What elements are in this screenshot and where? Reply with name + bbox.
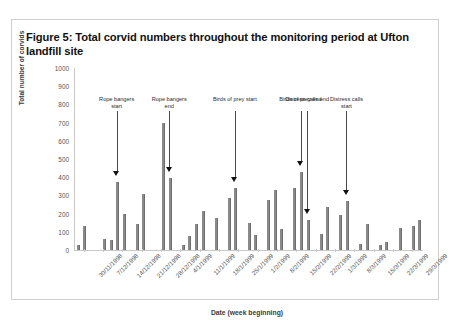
chart-bar: [300, 172, 303, 250]
chart-bar: [254, 235, 257, 250]
y-axis-tick: 800: [58, 101, 69, 108]
chart-bar: [77, 245, 80, 250]
x-axis-title: Date (week beginning): [152, 309, 342, 316]
chart-annotation-label: Distress calls end: [285, 96, 329, 103]
y-axis-tick: 900: [58, 83, 69, 90]
chart-annotation-arrow-icon: [166, 167, 172, 172]
chart-annotation-arrow-icon: [113, 171, 119, 176]
chart-bar: [228, 198, 231, 250]
chart-bar: [215, 218, 218, 250]
y-axis-tick: 400: [58, 174, 69, 181]
chart-annotation-label: Rope bangers start: [95, 96, 139, 109]
chart-bar: [248, 223, 251, 250]
chart-bar: [234, 188, 237, 250]
y-axis-tick: 0: [65, 247, 69, 254]
chart-bar: [326, 207, 329, 250]
y-axis-tick: 1000: [55, 65, 69, 72]
chart-bar: [110, 240, 113, 250]
y-axis-title: Total number of corvids: [18, 8, 25, 128]
x-axis-tick-mark: [277, 249, 278, 252]
y-axis-tick: 200: [58, 210, 69, 217]
x-axis-tick-mark: [103, 249, 104, 252]
chart-annotation-arrow-icon: [304, 209, 310, 214]
chart-annotation-arrow-icon: [297, 161, 303, 166]
chart-bar: [142, 194, 145, 250]
x-axis-tick-mark: [354, 249, 355, 252]
x-axis-tick-labels: 30/11/19987/12/199814/12/199821/12/19982…: [74, 252, 422, 304]
x-axis-tick-mark: [161, 249, 162, 252]
chart-annotation-label: Birds of prey start: [213, 96, 257, 103]
x-axis-tick-mark: [122, 249, 123, 252]
chart-annotation-leader-line: [169, 111, 170, 167]
x-axis-tick-mark: [412, 249, 413, 252]
chart-bar: [280, 229, 283, 250]
x-axis-tick: 8/2/1999: [288, 252, 310, 274]
chart-bar: [339, 215, 342, 250]
x-axis-tick-mark: [258, 249, 259, 252]
chart-bar: [83, 226, 86, 250]
chart-bar: [359, 244, 362, 250]
chart-bar: [182, 245, 185, 250]
chart-bar: [399, 228, 402, 250]
chart-annotation-arrow-icon: [343, 190, 349, 195]
chart-plot-panel: Total number of corvids 0100200300400500…: [22, 68, 430, 292]
chart-annotation-leader-line: [235, 111, 236, 177]
x-axis-tick-mark: [238, 249, 239, 252]
chart-bar: [385, 242, 388, 250]
y-axis-tick: 100: [58, 228, 69, 235]
chart-annotation-label: Distress calls start: [324, 96, 368, 109]
chart-bar: [320, 234, 323, 250]
chart-annotation-leader-line: [117, 111, 118, 171]
x-axis-tick: 8/3/1999: [365, 252, 387, 274]
x-axis-tick-mark: [142, 249, 143, 252]
chart-bar: [162, 123, 165, 250]
x-axis-tick-mark: [335, 249, 336, 252]
chart-bar: [307, 220, 310, 250]
x-axis-tick-mark: [316, 249, 317, 252]
chart-annotation-label: Rope bangers end: [147, 96, 191, 109]
chart-bar: [267, 200, 270, 250]
x-axis-tick-mark: [180, 249, 181, 252]
chart-annotation-leader-line: [301, 111, 302, 161]
chart-bar: [188, 236, 191, 250]
chart-annotation-leader-line: [307, 111, 308, 209]
chart-bar: [202, 211, 205, 250]
chart-bar: [379, 245, 382, 250]
chart-bar: [195, 224, 198, 250]
chart-bar: [136, 224, 139, 250]
y-axis-tick: 300: [58, 192, 69, 199]
x-axis-tick-mark: [296, 249, 297, 252]
chart-annotation-leader-line: [346, 111, 347, 190]
chart-bar: [169, 178, 172, 250]
x-axis-tick-mark: [374, 249, 375, 252]
chart-bar: [116, 182, 119, 250]
chart-bar: [366, 224, 369, 250]
x-axis-tick-mark: [84, 249, 85, 252]
chart-bar: [412, 226, 415, 250]
y-axis-tick: 500: [58, 156, 69, 163]
figure-caption: Figure 5: Total corvid numbers throughou…: [26, 30, 424, 58]
figure-card: Figure 5: Total corvid numbers throughou…: [11, 19, 439, 300]
chart-bar: [274, 190, 277, 250]
y-axis-tick-labels: 01002003004005006007008009001000: [36, 68, 72, 250]
x-axis-tick-mark: [200, 249, 201, 252]
chart-bar: [346, 201, 349, 250]
y-axis-tick: 600: [58, 137, 69, 144]
x-axis-tick-mark: [219, 249, 220, 252]
chart-bar: [123, 214, 126, 250]
x-axis-tick-mark: [393, 249, 394, 252]
chart-bar: [418, 220, 421, 250]
chart-bar: [293, 188, 296, 250]
chart-annotation-arrow-icon: [231, 177, 237, 182]
y-axis-tick: 700: [58, 119, 69, 126]
